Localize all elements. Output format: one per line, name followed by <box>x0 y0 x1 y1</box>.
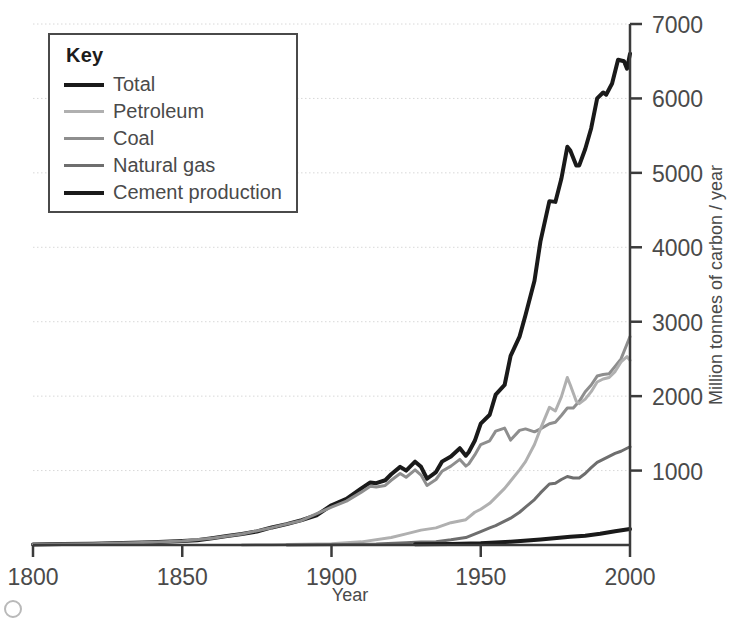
legend-title: Key <box>66 44 296 67</box>
legend-item-label: Cement production <box>113 181 282 204</box>
x-axis-title: Year <box>332 585 368 605</box>
y-tick-label: 4000 <box>652 235 703 261</box>
legend-swatch-icon <box>64 110 104 113</box>
legend-swatch-icon <box>64 137 104 140</box>
y-tick-label: 6000 <box>652 86 703 112</box>
legend-swatch-icon <box>64 191 104 195</box>
legend-item-label: Petroleum <box>113 100 204 123</box>
legend-item-cement-production: Cement production <box>64 179 296 206</box>
legend-item-petroleum: Petroleum <box>64 98 296 125</box>
y-tick-label: 2000 <box>652 384 703 410</box>
x-tick-label: 1950 <box>455 564 506 590</box>
corner-marker-icon <box>4 600 22 618</box>
legend-item-natural-gas: Natural gas <box>64 152 296 179</box>
legend-swatch-icon <box>64 83 104 87</box>
series-line-coal <box>33 337 630 545</box>
legend-rows: TotalPetroleumCoalNatural gasCement prod… <box>50 71 296 206</box>
legend-item-total: Total <box>64 71 296 98</box>
x-tick-label: 2000 <box>604 564 655 590</box>
y-tick-label: 3000 <box>652 310 703 336</box>
x-tick-label: 1850 <box>157 564 208 590</box>
x-tick-label: 1800 <box>7 564 58 590</box>
legend-item-label: Total <box>113 73 155 96</box>
legend-swatch-icon <box>64 164 104 167</box>
series-line-cement-production <box>415 529 630 544</box>
y-tick-label: 7000 <box>652 12 703 38</box>
legend: Key TotalPetroleumCoalNatural gasCement … <box>48 33 298 213</box>
chart-figure: 1800185019001950200010002000300040005000… <box>0 0 755 626</box>
series-line-petroleum <box>242 357 630 545</box>
y-axis-title: Million tonnes of carbon / year <box>706 165 726 405</box>
legend-item-coal: Coal <box>64 125 296 152</box>
y-tick-label: 1000 <box>652 459 703 485</box>
legend-item-label: Natural gas <box>113 154 215 177</box>
y-tick-label: 5000 <box>652 161 703 187</box>
legend-item-label: Coal <box>113 127 154 150</box>
